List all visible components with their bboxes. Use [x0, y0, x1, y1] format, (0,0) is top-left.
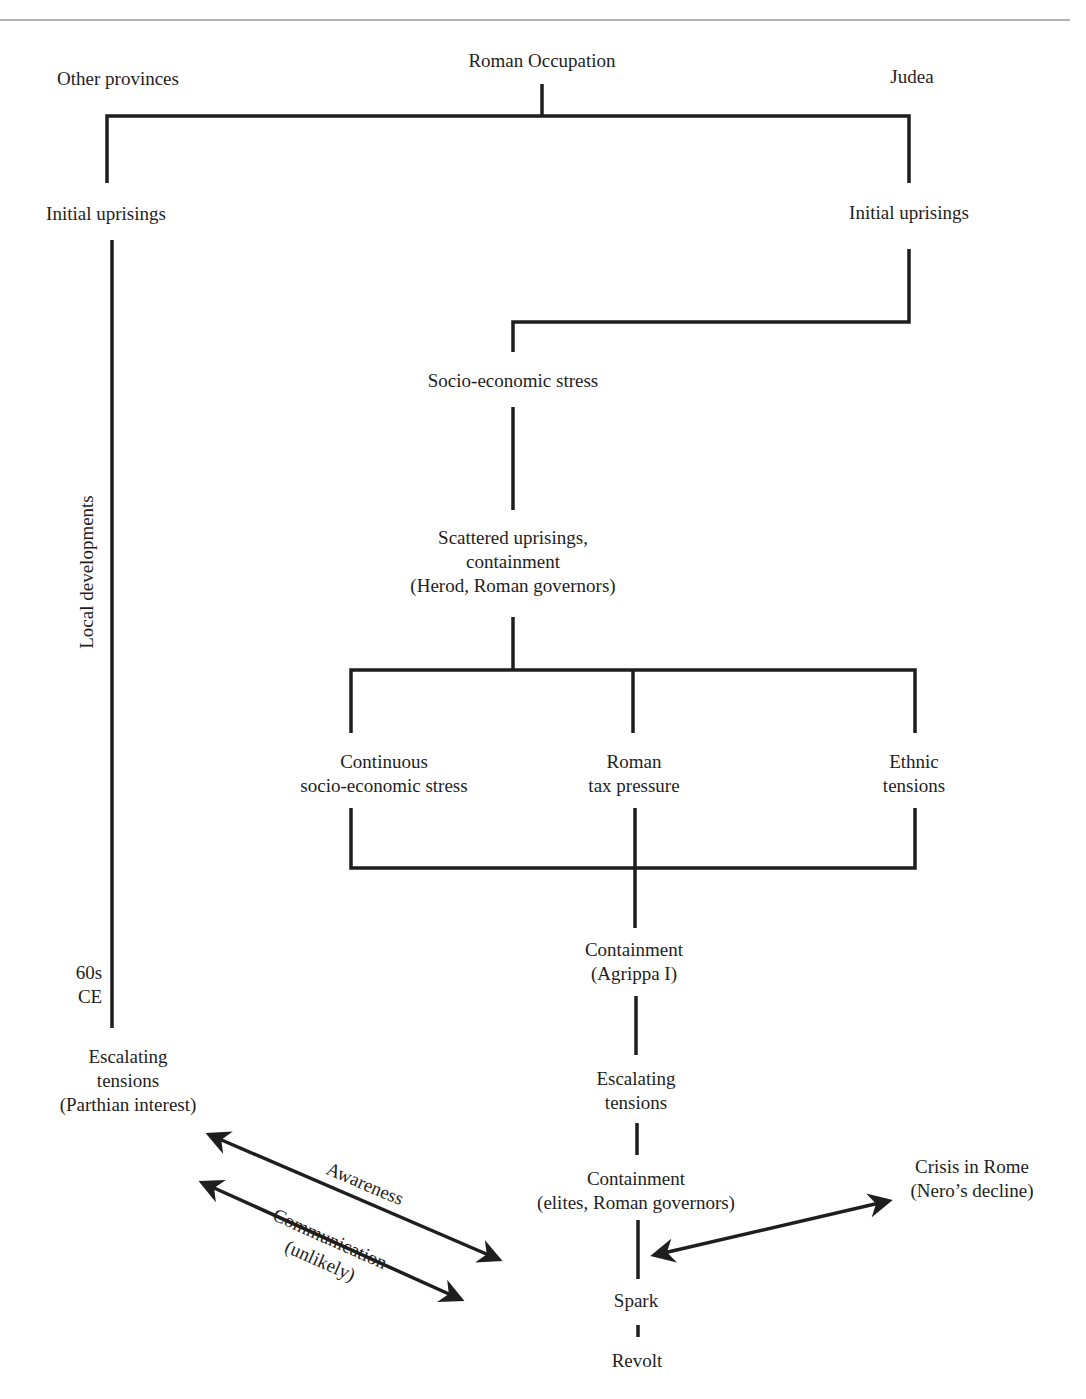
- node-scattered-uprisings: Scattered uprisings, containment (Herod,…: [410, 526, 615, 598]
- node-socio-economic-stress: Socio-economic stress: [428, 369, 598, 393]
- node-revolt: Revolt: [612, 1349, 663, 1373]
- edge-cause-merge: [351, 808, 915, 868]
- node-judea: Judea: [890, 65, 933, 89]
- node-roman-occupation: Roman Occupation: [468, 49, 615, 73]
- node-spark: Spark: [614, 1289, 658, 1313]
- node-crisis-rome: Crisis in Rome (Nero’s decline): [911, 1155, 1034, 1203]
- node-roman-tax: Roman tax pressure: [588, 750, 679, 798]
- node-containment-elites: Containment (elites, Roman governors): [537, 1167, 735, 1215]
- node-other-provinces: Other provinces: [57, 67, 179, 91]
- edge-judea-to-stress: [513, 249, 909, 352]
- node-initial-uprisings-left: Initial uprisings: [46, 202, 166, 226]
- node-containment-agrippa: Containment (Agrippa I): [585, 938, 683, 986]
- label-60s-ce: 60s CE: [76, 961, 102, 1009]
- node-escalating-tensions-other: Escalating tensions (Parthian interest): [60, 1045, 197, 1117]
- node-continuous-stress: Continuous socio-economic stress: [300, 750, 467, 798]
- node-ethnic-tensions: Ethnic tensions: [883, 750, 945, 798]
- label-local-developments: Local developments: [75, 482, 99, 662]
- edge-root-split: [107, 116, 909, 183]
- node-initial-uprisings-right: Initial uprisings: [849, 201, 969, 225]
- node-escalating-tensions-judea: Escalating tensions: [596, 1067, 675, 1115]
